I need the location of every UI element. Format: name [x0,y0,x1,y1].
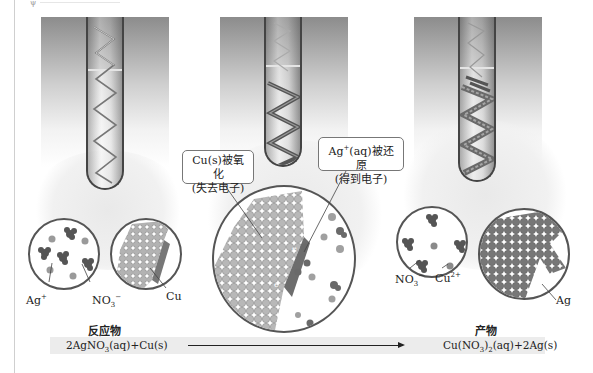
test-tube-reaction [264,17,302,167]
reaction-arrow-icon [188,345,403,346]
circle-solution-ions [28,218,100,290]
copper-coil-icon [88,17,122,188]
ions-illustration-icon [30,220,100,290]
label-ag-metal: Ag [556,295,571,307]
eq-text: (aq)+Cu(s) [109,339,167,351]
label-charge: 2+ [451,271,461,279]
equation-products: Cu(NO3)2(aq)+2Ag(s) [443,339,557,357]
label-nitrate-right: NO3− [395,270,424,290]
eq-text: 2AgNO [66,339,105,351]
label-text: Cu [435,272,451,285]
callout-reduction-line1: Ag+(aq)被还原 [325,141,397,173]
equation-reactants: 2AgNO3(aq)+Cu(s) [66,339,168,357]
callout-oxidation: Cu(s)被氧化 (失去电子) [182,150,254,184]
callout-oxidation-line2: (失去电子) [189,182,247,196]
electron-label-2: e [274,280,279,289]
test-tube-products [458,17,496,182]
label-ag-ion: Ag+ [26,291,47,307]
circle-reaction-detail: e e [212,185,356,333]
silver-crystal-icon [480,210,570,300]
eq-text: (aq)+2Ag(s) [493,339,558,351]
label-text: NO [395,273,414,286]
label-text: NO [92,294,111,307]
coated-coil-icon [266,17,300,167]
callout-reduction-line2: (得到电子) [325,173,397,187]
circle-product-ions [396,206,468,278]
label-cu-ion: Cu2+ [435,269,461,285]
label-charge: − [418,272,424,280]
reactants-heading: 反应物 [88,322,121,338]
test-tube-reactants [86,17,124,190]
label-charge: + [41,293,47,301]
label-subscript: 3 [111,301,115,309]
top-rule [40,2,120,3]
label-text: Ag [26,294,41,307]
copper-lattice-icon [112,220,182,290]
page-mark: ψ [30,0,36,6]
silver-coated-coil-icon [460,17,494,182]
eq-text: Cu(NO [443,339,480,351]
label-nitrate-left: NO3− [92,291,121,311]
page-margin-line [14,0,15,373]
circle-copper-metal [110,218,182,290]
electron-label-1: e [292,244,297,253]
label-cu: Cu [166,291,182,303]
reduction-text: (aq)被还原 [349,145,393,172]
callout-reduction: Ag+(aq)被还原 (得到电子) [318,137,404,171]
reaction-detail-illustration-icon: e e [214,187,356,333]
label-charge: − [115,293,121,301]
circle-silver-metal [478,208,570,300]
callout-oxidation-line1: Cu(s)被氧化 [189,154,247,182]
ag-text: Ag [328,145,343,158]
product-ions-icon [398,208,468,278]
products-heading: 产物 [475,322,497,338]
label-subscript: 3 [414,280,418,288]
